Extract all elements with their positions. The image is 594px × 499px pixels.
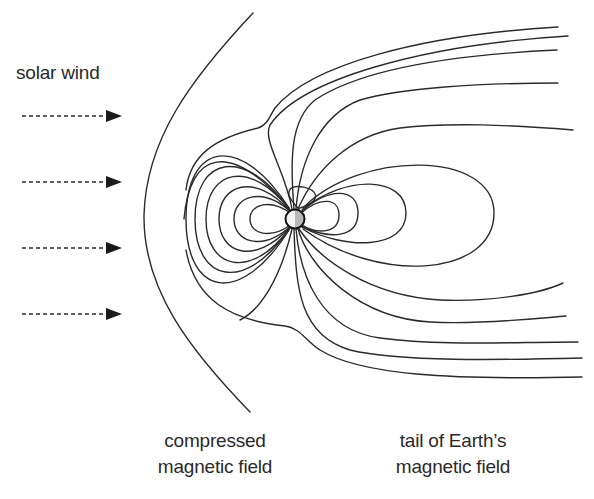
solar-wind-arrow-3 [22,242,122,254]
dayside-field-loops [186,156,292,283]
solar-wind-arrow-1 [22,110,122,122]
magnetopause-lines [184,27,582,378]
compressed-field-label: compressed magnetic field [140,428,290,480]
magnetotail-label: tail of Earth’s magnetic field [378,428,528,480]
solar-wind-arrow-2 [22,176,122,188]
magnetotail-label-line2: magnetic field [378,454,528,480]
solar-wind-arrows [22,110,122,320]
earth-icon [286,210,305,229]
solar-wind-arrow-4 [22,308,122,320]
bow-shock-line [144,13,253,412]
nightside-field-loops [300,165,494,266]
north-tail-field-lines [268,36,573,209]
magnetotail-label-line1: tail of Earth’s [378,428,528,454]
compressed-field-label-line1: compressed [140,428,290,454]
south-tail-field-lines [240,229,582,360]
solar-wind-label: solar wind [16,60,100,86]
compressed-field-label-line2: magnetic field [140,454,290,480]
